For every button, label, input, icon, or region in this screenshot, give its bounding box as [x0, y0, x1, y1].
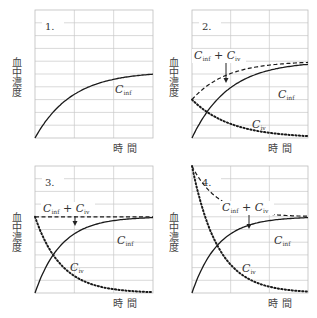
- series-label-inf: Cinf: [115, 83, 132, 96]
- arrow-head-icon: [224, 78, 229, 83]
- y-axis-label: 血中濃度: [11, 211, 22, 253]
- arrow-head-icon: [247, 224, 252, 229]
- series-label-inf: Cinf: [117, 234, 134, 247]
- x-axis-label: 時 間: [268, 143, 291, 154]
- series-line-c-inf: [35, 74, 153, 138]
- series-line-c-iv: [35, 217, 153, 292]
- chart-panel-3: 3.血中濃度時 間CinfCivCinf + Civ: [11, 166, 154, 309]
- y-axis-label: 血中濃度: [11, 56, 22, 98]
- panel-label: 4.: [202, 177, 212, 188]
- series-label-inf: Cinf: [278, 88, 295, 101]
- series-label-iv: Civ: [242, 262, 256, 275]
- sum-annotation: Cinf + Civ: [222, 201, 269, 214]
- x-axis-label: 時 間: [113, 143, 136, 154]
- chart-panel-2: 2.血中濃度時 間CinfCivCinf + Civ: [168, 10, 309, 154]
- sum-annotation: Cinf + Civ: [194, 49, 241, 62]
- series-line-c-iv: [192, 100, 308, 137]
- series-line-c-inf: [192, 64, 308, 138]
- panel-label: 3.: [45, 177, 55, 188]
- chart-panel-4: 4.血中濃度時 間CinfCivCinf + Civ: [168, 166, 309, 309]
- x-axis-label: 時 間: [268, 298, 291, 309]
- panel-label: 1.: [45, 21, 55, 32]
- x-axis-label: 時 間: [113, 298, 136, 309]
- panel-label: 2.: [202, 21, 212, 32]
- chart-panel-1: 1.血中濃度時 間Cinf: [11, 10, 154, 154]
- series-label-iv: Civ: [252, 118, 266, 131]
- series-line-c-inf: [192, 218, 308, 293]
- series-label-iv: Civ: [70, 261, 84, 274]
- y-axis-label: 血中濃度: [168, 211, 179, 253]
- arrow-head-icon: [73, 221, 78, 226]
- figure: 1.血中濃度時 間Cinf2.血中濃度時 間CinfCivCinf + Civ3…: [0, 0, 317, 318]
- y-axis-label: 血中濃度: [168, 56, 179, 98]
- sum-annotation: Cinf + Civ: [43, 202, 90, 215]
- series-label-inf: Cinf: [274, 234, 291, 247]
